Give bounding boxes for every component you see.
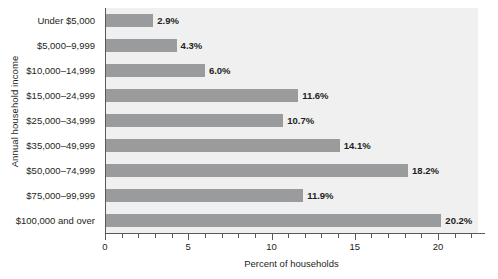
bar	[105, 164, 408, 177]
x-axis-tick-label: 20	[433, 241, 444, 252]
y-axis-tick-label: $5,000–9,999	[37, 41, 95, 51]
bar-row: 20.2%	[105, 208, 478, 233]
y-axis-tick-label: $75,000–99,999	[26, 191, 95, 201]
x-axis-major-tick	[272, 234, 273, 240]
y-axis-tick-label: $35,000–49,999	[26, 141, 95, 151]
bar-chart-figure: Annual household income Under $5,000$5,0…	[0, 0, 498, 279]
bar-value-label: 20.2%	[445, 216, 472, 226]
x-axis-title: Percent of households	[105, 258, 478, 269]
x-axis-tick-label: 5	[186, 241, 191, 252]
bar-row: 18.2%	[105, 158, 478, 183]
y-axis-tick-label-row: $5,000–9,999	[12, 33, 100, 58]
bar-row: 14.1%	[105, 133, 478, 158]
bar-row: 10.7%	[105, 108, 478, 133]
x-axis-minor-tick	[421, 234, 422, 238]
y-axis-tick-label-row: $75,000–99,999	[12, 183, 100, 208]
bar	[105, 139, 340, 152]
x-axis-minor-tick	[371, 234, 372, 238]
y-axis-tick-label: Under $5,000	[37, 16, 95, 26]
x-axis-minor-tick	[305, 234, 306, 238]
y-axis-tick-label: $100,000 and over	[16, 216, 95, 226]
bar	[105, 64, 205, 77]
bar	[105, 89, 298, 102]
x-axis-minor-tick	[238, 234, 239, 238]
x-axis-tick-label: 0	[102, 241, 107, 252]
bar-value-label: 2.9%	[157, 16, 179, 26]
x-axis-minor-tick	[122, 234, 123, 238]
bar	[105, 189, 303, 202]
y-axis-line	[105, 8, 106, 234]
bar-value-label: 4.3%	[181, 41, 203, 51]
bar-row: 6.0%	[105, 58, 478, 83]
bar-row: 11.6%	[105, 83, 478, 108]
x-axis-minor-tick	[321, 234, 322, 238]
x-axis-minor-tick	[455, 234, 456, 238]
y-axis-tick-label-row: $50,000–74,999	[12, 158, 100, 183]
bar-value-label: 10.7%	[287, 116, 314, 126]
x-axis-minor-tick	[471, 234, 472, 238]
y-axis-tick-label: $50,000–74,999	[26, 166, 95, 176]
x-axis-tick-label: 15	[349, 241, 360, 252]
y-axis-tick-label-row: $15,000–24,999	[12, 83, 100, 108]
x-axis-minor-tick	[138, 234, 139, 238]
x-axis-major-tick	[355, 234, 356, 240]
bar-row: 4.3%	[105, 33, 478, 58]
y-axis-tick-label-row: $35,000–49,999	[12, 133, 100, 158]
y-axis-tick-label: $15,000–24,999	[26, 91, 95, 101]
x-axis-major-tick	[438, 234, 439, 240]
x-axis-minor-tick	[338, 234, 339, 238]
y-axis-tick-label-row: $10,000–14,999	[12, 58, 100, 83]
x-axis-major-tick	[188, 234, 189, 240]
bar	[105, 114, 283, 127]
bar	[105, 39, 177, 52]
x-axis-minor-tick	[172, 234, 173, 238]
x-axis-minor-tick	[205, 234, 206, 238]
x-axis-major-tick	[105, 234, 106, 240]
x-axis-tick-label: 10	[266, 241, 277, 252]
y-axis-tick-label: $10,000–14,999	[26, 66, 95, 76]
plot-area: 2.9%4.3%6.0%11.6%10.7%14.1%18.2%11.9%20.…	[105, 8, 478, 233]
y-axis-tick-labels: Under $5,000$5,000–9,999$10,000–14,999$1…	[12, 8, 100, 233]
y-axis-tick-label-row: $100,000 and over	[12, 208, 100, 233]
x-axis-minor-tick	[255, 234, 256, 238]
x-axis-minor-tick	[155, 234, 156, 238]
bar	[105, 14, 153, 27]
y-axis-tick-label-row: $25,000–34,999	[12, 108, 100, 133]
x-axis-minor-tick	[288, 234, 289, 238]
x-axis-line	[105, 233, 485, 234]
bar-row: 11.9%	[105, 183, 478, 208]
x-axis-minor-tick	[405, 234, 406, 238]
y-axis-tick-label-row: Under $5,000	[12, 8, 100, 33]
bar-value-label: 11.9%	[307, 191, 333, 201]
bar-value-label: 18.2%	[412, 166, 439, 176]
bar-value-label: 11.6%	[302, 91, 328, 101]
bar-value-label: 6.0%	[209, 66, 231, 76]
bar	[105, 214, 441, 227]
x-axis-minor-tick	[388, 234, 389, 238]
bar-value-label: 14.1%	[344, 141, 371, 151]
y-axis-tick-label: $25,000–34,999	[26, 116, 95, 126]
bar-row: 2.9%	[105, 8, 478, 33]
bar-rows: 2.9%4.3%6.0%11.6%10.7%14.1%18.2%11.9%20.…	[105, 8, 478, 233]
x-axis-minor-tick	[222, 234, 223, 238]
